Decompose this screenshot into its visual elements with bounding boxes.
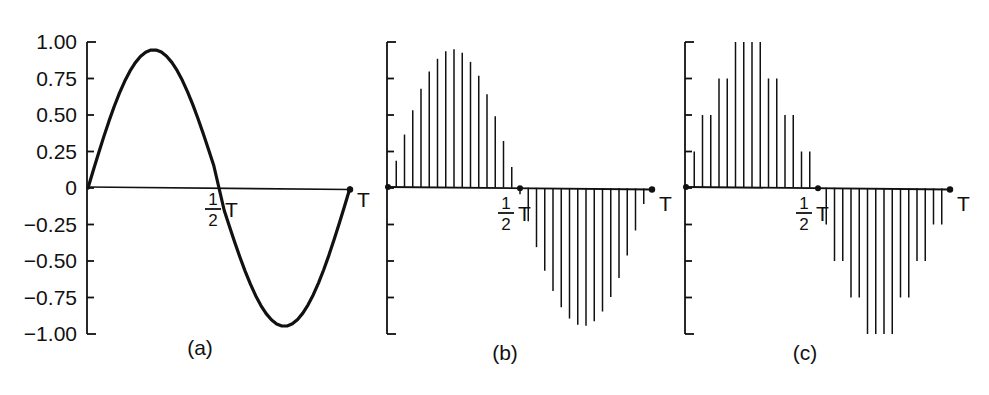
period-label-a: T [357,188,370,211]
half-period-denominator: 2 [501,215,510,234]
y-tick-label-4: 0 [65,176,77,199]
y-tick-label-8: −1.00 [24,322,77,345]
period-end-dot [649,186,655,192]
half-period-label-b: 12T [498,194,531,234]
half-period-numerator: 1 [501,194,510,213]
origin-dot [683,184,689,190]
origin-dot [385,184,391,190]
half-period-dot [517,185,523,191]
panel-b [385,42,655,334]
y-tick-label-6: −0.50 [24,249,77,272]
y-tick-label-2: 0.50 [36,103,77,126]
y-tick-label-5: −0.25 [24,213,77,236]
y-tick-label-1: 0.75 [36,67,77,90]
panel-c [683,42,953,334]
caption-c: (c) [793,341,818,364]
y-tick-label-7: −0.75 [24,286,77,309]
figure-container: 1.000.750.500.250−0.25−0.50−0.75−1.0012T… [0,0,989,395]
half-period-t-symbol: T [518,202,531,225]
half-period-denominator: 2 [799,215,808,234]
half-period-dot [815,185,821,191]
half-period-t-symbol: T [225,198,238,221]
half-period-denominator: 2 [208,211,217,230]
y-tick-label-3: 0.25 [36,140,77,163]
half-period-t-symbol: T [816,202,829,225]
panel-a: 1.000.750.500.250−0.25−0.50−0.75−1.00 [24,30,353,345]
half-period-numerator: 1 [208,190,217,209]
panel-captions: (a)(b)(c) [187,336,817,364]
caption-a: (a) [187,336,213,359]
period-label-c: T [957,192,970,215]
period-end-dot [347,186,353,192]
period-labels: TTT [357,188,970,215]
period-label-b: T [659,192,672,215]
half-period-label-c: 12T [796,194,829,234]
y-tick-label-0: 1.00 [36,30,77,53]
caption-b: (b) [492,341,518,364]
period-end-dot [947,186,953,192]
half-period-numerator: 1 [799,194,808,213]
three-panel-sampling-figure: 1.000.750.500.250−0.25−0.50−0.75−1.0012T… [0,0,989,395]
